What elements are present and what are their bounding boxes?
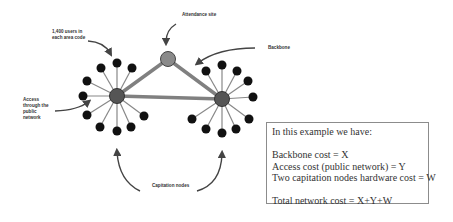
capitation-nodes-label: Capitation nodes xyxy=(152,183,190,188)
annotation-arrows xyxy=(55,24,255,191)
hardware-cost: Two capitation nodes hardware cost = W xyxy=(272,172,428,184)
right-capitation-node xyxy=(215,92,230,107)
backbone-cost: Backbone cost = X xyxy=(272,149,428,161)
summary-heading: In this example we have: xyxy=(272,126,428,138)
access-arrow-icon xyxy=(55,102,88,111)
attendance-site-label: Attendance site xyxy=(182,12,217,17)
cost-summary-box: In this example we have: Backbone cost =… xyxy=(266,122,429,204)
access-cost: Access cost (public network) = Y xyxy=(272,161,428,173)
backbone-label: Backbone xyxy=(268,45,290,50)
attendance-site-node xyxy=(161,52,176,67)
left-capitation-node xyxy=(110,89,125,104)
access-label: Access through the public network xyxy=(23,97,50,120)
left-capitation-arrow-icon xyxy=(117,152,140,191)
users-label: 1,400 users in each area code xyxy=(52,29,86,40)
right-capitation-arrow-icon xyxy=(197,154,222,191)
backbone-arrow-icon xyxy=(198,48,255,63)
attendance-arrow-icon xyxy=(166,24,176,42)
users-arrow-icon xyxy=(88,41,110,53)
total-cost: Total network cost = X+Y+W xyxy=(272,195,428,207)
